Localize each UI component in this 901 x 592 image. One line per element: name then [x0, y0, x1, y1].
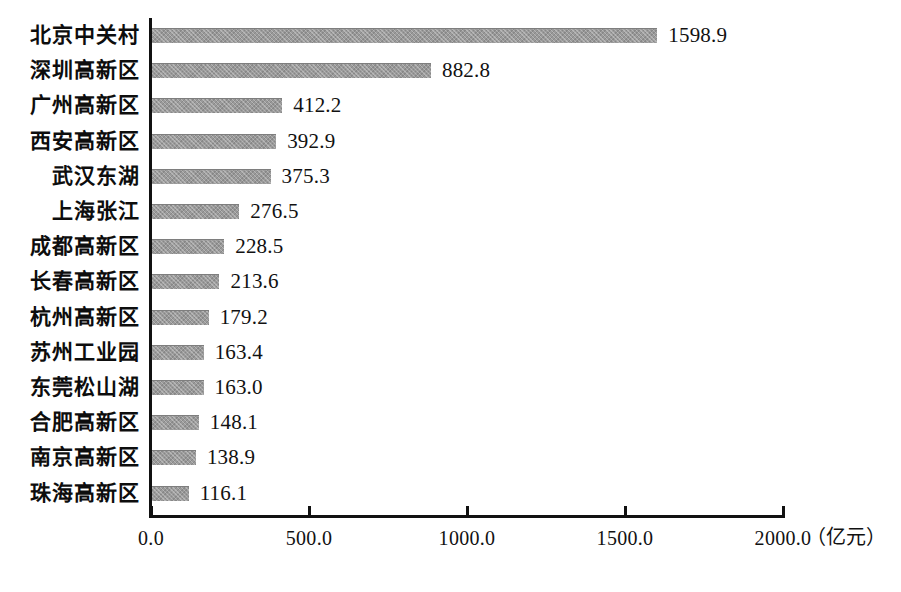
bar: [152, 98, 282, 113]
category-label: 广州高新区: [0, 88, 140, 122]
bar-fill: [152, 134, 276, 149]
bar-value-label: 228.5: [235, 231, 283, 261]
bar-row: 珠海高新区116.1: [0, 476, 901, 510]
bar: [152, 486, 189, 501]
bar-row: 上海张江276.5: [0, 194, 901, 228]
bar-fill: [152, 486, 189, 501]
bar-fill: [152, 98, 282, 113]
bar-value-label: 179.2: [220, 302, 268, 332]
bar: [152, 134, 276, 149]
bar-row: 武汉东湖375.3: [0, 159, 901, 193]
category-label: 珠海高新区: [0, 476, 140, 510]
bar: [152, 380, 204, 395]
category-label: 成都高新区: [0, 229, 140, 263]
bar-value-label: 148.1: [210, 407, 258, 437]
bar-value-label: 276.5: [250, 196, 298, 226]
bar-row: 广州高新区412.2: [0, 88, 901, 122]
category-label: 长春高新区: [0, 264, 140, 298]
bar-row: 西安高新区392.9: [0, 124, 901, 158]
bar-row: 深圳高新区882.8: [0, 53, 901, 87]
bar-row: 合肥高新区148.1: [0, 405, 901, 439]
bar: [152, 239, 224, 254]
bar-fill: [152, 415, 199, 430]
x-tick-label: 500.0: [286, 526, 333, 550]
bar: [152, 169, 271, 184]
category-label: 深圳高新区: [0, 53, 140, 87]
category-label: 南京高新区: [0, 440, 140, 474]
bar-row: 南京高新区138.9: [0, 440, 901, 474]
category-label: 北京中关村: [0, 18, 140, 52]
bar: [152, 274, 219, 289]
bar-value-label: 163.4: [215, 337, 263, 367]
bar-row: 杭州高新区179.2: [0, 300, 901, 334]
bar-fill: [152, 450, 196, 465]
category-label: 苏州工业园: [0, 335, 140, 369]
bar-fill: [152, 169, 271, 184]
bar-fill: [152, 63, 431, 78]
x-tick-label: 1500.0: [597, 526, 654, 550]
bar-value-label: 163.0: [215, 372, 263, 402]
bar: [152, 310, 209, 325]
bar-value-label: 213.6: [230, 266, 278, 296]
bar: [152, 204, 239, 219]
bar-value-label: 1598.9: [668, 20, 727, 50]
bar-row: 长春高新区213.6: [0, 264, 901, 298]
bar-chart: 0.0500.01000.01500.02000.0 （亿元） 北京中关村159…: [0, 0, 901, 592]
x-axis-unit-label: （亿元）: [806, 525, 886, 549]
x-tick-label: 2000.0: [755, 526, 812, 550]
bar: [152, 63, 431, 78]
bar-row: 北京中关村1598.9: [0, 18, 901, 52]
category-label: 杭州高新区: [0, 300, 140, 334]
bar-value-label: 116.1: [200, 478, 247, 508]
category-label: 上海张江: [0, 194, 140, 228]
bar-value-label: 412.2: [293, 90, 341, 120]
category-label: 合肥高新区: [0, 405, 140, 439]
category-label: 西安高新区: [0, 124, 140, 158]
bar-value-label: 392.9: [287, 126, 335, 156]
bar-fill: [152, 345, 204, 360]
bar-fill: [152, 239, 224, 254]
bar: [152, 415, 199, 430]
x-tick-label: 0.0: [138, 526, 164, 550]
bar: [152, 345, 204, 360]
category-label: 东莞松山湖: [0, 370, 140, 404]
bar-row: 苏州工业园163.4: [0, 335, 901, 369]
bar: [152, 28, 657, 43]
bar-fill: [152, 274, 219, 289]
bar-fill: [152, 28, 657, 43]
bar-value-label: 375.3: [282, 161, 330, 191]
bar-value-label: 138.9: [207, 442, 255, 472]
bar-fill: [152, 204, 239, 219]
bar: [152, 450, 196, 465]
bar-fill: [152, 380, 204, 395]
x-tick-label: 1000.0: [439, 526, 496, 550]
category-label: 武汉东湖: [0, 159, 140, 193]
bar-value-label: 882.8: [442, 55, 490, 85]
bar-fill: [152, 310, 209, 325]
bar-row: 成都高新区228.5: [0, 229, 901, 263]
bar-row: 东莞松山湖163.0: [0, 370, 901, 404]
